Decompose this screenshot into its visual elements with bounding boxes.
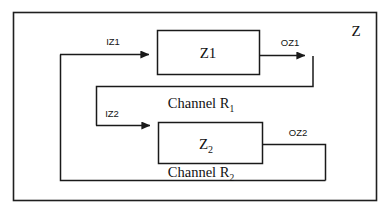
channel-r2-label: Channel R2 <box>168 164 235 183</box>
diagram-canvas: Z Z1 Z2 IZ1 OZ1 IZ2 OZ2 Channel R1 Chann… <box>0 0 390 213</box>
block-z1-label: Z1 <box>200 45 217 61</box>
signal-label-oz1: OZ1 <box>281 37 299 48</box>
channel-r1-label-base: Channel R <box>168 95 230 111</box>
signal-label-oz2: OZ2 <box>289 127 307 138</box>
block-z2-label-subscript: 2 <box>208 144 213 155</box>
block-z2-label-base: Z <box>199 136 208 152</box>
signal-label-iz2: IZ2 <box>105 108 119 119</box>
channel-r1-label-subscript: 1 <box>229 104 234 114</box>
channel-r2-label-subscript: 2 <box>229 173 234 183</box>
channel-r2-label-base: Channel R <box>168 164 230 180</box>
signal-line-oz2 <box>262 145 326 181</box>
block-diagram: Z Z1 Z2 IZ1 OZ1 IZ2 OZ2 Channel R1 Chann… <box>0 0 390 213</box>
block-z2[interactable] <box>159 123 263 164</box>
outer-system-label: Z <box>351 23 360 39</box>
channel-r1-label: Channel R1 <box>168 95 235 114</box>
signal-label-iz1: IZ1 <box>106 36 120 47</box>
